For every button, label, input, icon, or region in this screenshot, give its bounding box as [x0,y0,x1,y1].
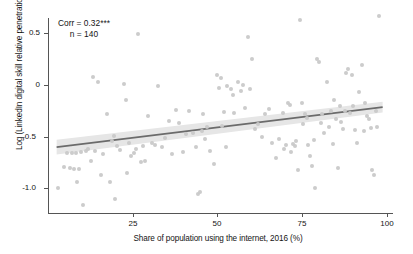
data-point [336,166,340,170]
x-tick-mark [133,213,134,217]
x-axis-label: Share of population using the internet, … [48,234,388,243]
x-tick-mark [302,213,303,217]
regression-overlay [48,14,393,213]
x-tick-mark [387,213,388,217]
data-point [217,86,221,90]
data-point [346,67,350,71]
data-point [348,111,352,115]
data-point [108,180,112,184]
data-point [201,112,205,116]
data-point [288,103,292,107]
data-point [270,141,274,145]
x-axis-line [48,213,393,214]
corr-text: Corr = 0.32*** [58,18,110,28]
y-tick-label: -0.5 [10,132,36,141]
data-point [184,132,188,136]
data-point [141,144,145,148]
data-point [338,104,342,108]
data-point [81,203,85,207]
data-point [277,137,281,141]
data-point [357,90,361,94]
data-point [289,150,293,154]
data-point [115,144,119,148]
x-tick-mark [217,213,218,217]
data-point [319,121,323,125]
data-point [329,109,333,113]
data-point [320,112,324,116]
data-point [312,138,316,142]
data-point [243,106,247,110]
y-tick-label: 0 [14,80,40,89]
plot-area [48,14,393,213]
data-point [181,150,185,154]
scatter-plot-figure: Log (LinkedIn digital skill relative pen… [0,0,413,254]
data-point [198,190,202,194]
data-point [79,150,83,154]
y-tick-label: -1.0 [10,183,36,192]
data-point [86,147,90,151]
data-point [132,151,136,155]
data-point [222,110,226,114]
data-point [191,131,195,135]
data-point [65,151,69,155]
data-point [317,60,321,64]
data-point [143,159,147,163]
data-point [224,145,228,149]
data-point [62,165,66,169]
x-tick-label: 25 [120,219,146,228]
data-point [231,93,235,97]
x-tick-label: 75 [289,219,315,228]
data-point [300,101,304,105]
data-point [374,109,378,113]
data-point [153,143,157,147]
data-point [331,142,335,146]
data-point [203,137,207,141]
sample-size-text: n = 140 [58,29,110,40]
data-point [343,109,347,113]
data-point [74,151,78,155]
y-tick-label: 0.5 [14,28,40,37]
data-point [322,131,326,135]
data-point [282,147,286,151]
data-point [208,149,212,153]
data-point [298,18,302,22]
data-point [372,173,376,177]
data-point [212,162,216,166]
data-point [355,141,359,145]
data-point [267,107,271,111]
data-point [360,63,364,67]
data-point [281,111,285,115]
confidence-band [57,102,383,155]
data-point [229,87,233,91]
data-point [134,147,138,151]
data-point [284,143,288,147]
x-tick-label: 100 [374,219,400,228]
data-point [200,129,204,133]
data-point [369,126,373,130]
data-point [248,87,252,91]
data-point [219,76,223,80]
data-point [127,141,131,145]
data-point [232,111,236,115]
x-tick-label: 50 [204,219,230,228]
data-point [124,98,128,102]
data-point [362,129,366,133]
data-point [112,134,116,138]
data-point [293,144,297,148]
data-point [105,112,109,116]
data-point [260,135,264,139]
data-point [160,145,164,149]
data-point [250,57,254,61]
data-point [110,139,114,143]
data-point [205,125,209,129]
data-point [93,149,97,153]
data-point [72,167,76,171]
data-point [174,108,178,112]
correlation-annotation: Corr = 0.32*** n = 140 [58,18,110,40]
